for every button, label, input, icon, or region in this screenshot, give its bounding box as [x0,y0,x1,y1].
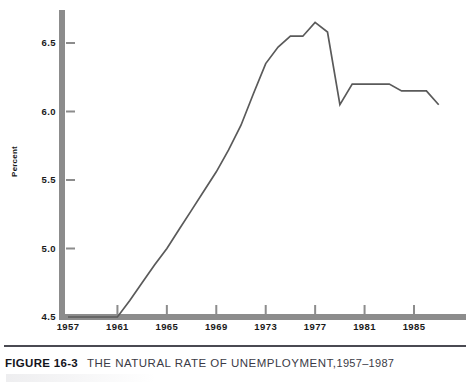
natural-rate-line [68,22,439,317]
caption-divider-rule [4,345,466,347]
x-tick-mark [413,305,415,314]
y-tick-label: 4.5 [22,312,56,322]
y-tick-label: 6.5 [22,38,56,48]
figure-caption: FIGURE 16-3THE NATURAL RATE OF UNEMPLOYM… [5,353,465,371]
x-tick-label: 1969 [196,322,236,332]
figure-number: FIGURE 16-3 [5,357,78,369]
x-tick-label: 1977 [295,322,335,332]
y-tick-label: 5.0 [22,244,56,254]
unemployment-line-chart [0,0,470,340]
y-axis-tick-marks [66,42,75,250]
x-tick-label: 1981 [345,322,385,332]
x-tick-mark [116,305,118,314]
x-axis-tick-marks [116,305,415,314]
x-tick-mark [215,305,217,314]
x-tick-label: 1985 [394,322,434,332]
chart-plot-area: Percent 6.56.05.55.04.5 1957196119651969… [0,0,470,340]
y-tick-label: 5.5 [22,175,56,185]
y-tick-label: 6.0 [22,107,56,117]
x-tick-label: 1965 [147,322,187,332]
x-tick-label: 1973 [246,322,286,332]
y-tick-mark [66,42,75,44]
y-axis-bar [59,10,65,320]
y-tick-mark [66,111,75,113]
x-tick-mark [166,305,168,314]
x-tick-mark [265,305,267,314]
y-tick-mark [66,248,75,250]
x-tick-label: 1961 [97,322,137,332]
figure-title: THE NATURAL RATE OF UNEMPLOYMENT, [87,357,337,369]
y-axis-title: Percent [10,132,19,192]
figure-year-range: 1957–1987 [336,357,394,369]
figure-container: Percent 6.56.05.55.04.5 1957196119651969… [0,0,470,383]
y-tick-mark [66,179,75,181]
x-tick-mark [364,305,366,314]
page-edge-artifact [6,374,156,382]
x-tick-mark [314,305,316,314]
x-tick-label: 1957 [48,322,88,332]
